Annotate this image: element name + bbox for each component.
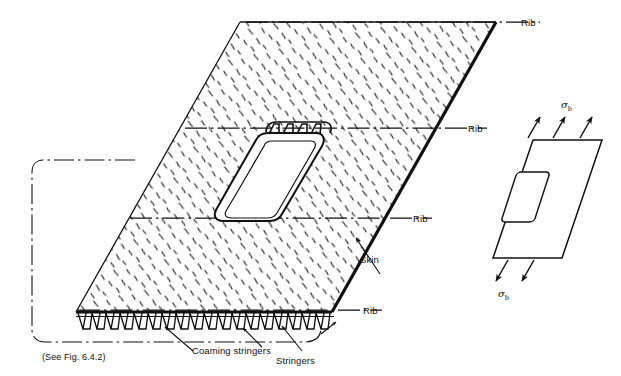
engineering-figure: Rib Rib Rib Rib Skin Coaming stringers S… [0,0,621,376]
stringer [274,313,288,329]
stringer [204,313,218,329]
rib-label-1: Rib [521,18,536,28]
figure-canvas [0,0,621,376]
stringer [120,313,134,329]
stringer [302,313,316,329]
skin-label: Skin [360,255,379,265]
stringer [260,313,274,329]
coaming-stringers-leader [165,327,193,351]
see-fig-label: (See Fig. 6.4.2) [42,353,106,362]
stringer [316,313,330,329]
stringer [218,313,232,329]
tension-arrows-top [528,117,592,138]
rib-label-3: Rib [413,214,428,224]
tension-arrows-bottom [496,260,534,281]
stringer [176,313,190,329]
rib-label-4: Rib [363,306,378,316]
stress-label-bottom: σb [498,288,509,302]
stringer [78,313,92,329]
arrow-up-right-icon [580,117,592,138]
arrow-up-right-icon [528,117,540,138]
stringers-leader [282,326,302,351]
arrow-down-left-icon [496,260,508,281]
stringer [162,313,176,329]
stringer [134,313,148,329]
rib-label-2: Rib [468,124,483,134]
stringers-label: Stringers [276,356,315,366]
stringer [232,313,246,329]
stress-label-top: σb [561,99,572,113]
stringer [106,313,120,329]
stress-subscript-top: b [568,105,572,113]
arrow-down-left-icon [522,260,534,281]
stress-subscript-bottom: b [505,294,509,302]
stress-symbol-top: σ [561,99,568,110]
arrow-up-right-icon [553,117,565,138]
main-stiffened-panel [32,22,540,351]
idealised-panel-inset [493,117,602,281]
stringer [148,313,162,329]
stringer [92,313,106,329]
stress-symbol-bottom: σ [498,288,505,299]
stringer [246,313,260,329]
coaming-stringers-label: Coaming stringers [192,346,271,356]
stringer [190,313,204,329]
stringer-group [76,313,334,329]
stringer [288,313,302,329]
